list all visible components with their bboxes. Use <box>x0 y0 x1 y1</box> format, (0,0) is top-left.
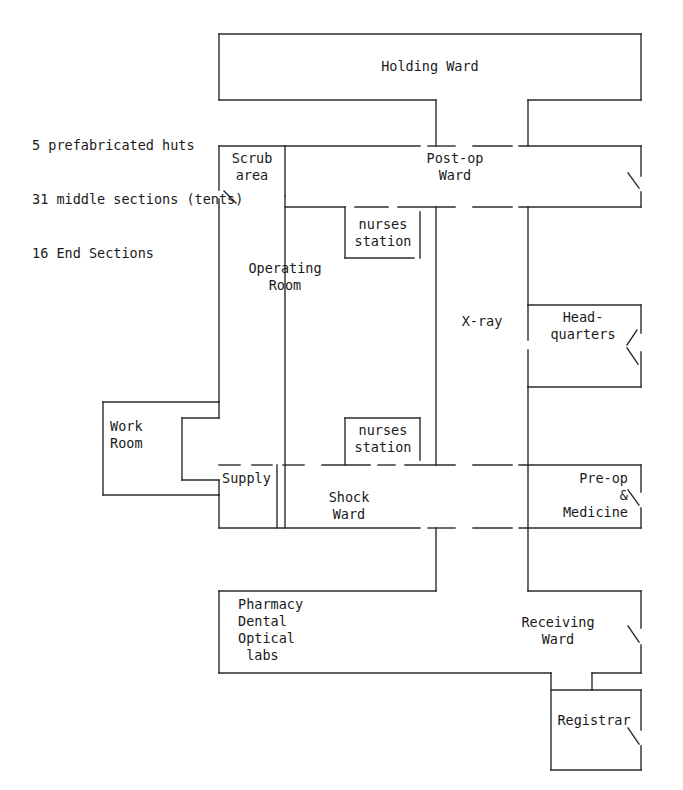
wall-group-xray-corridor <box>436 207 528 465</box>
room-label-nurses-station-lower: nurses station <box>341 422 425 456</box>
wall-group-registrar <box>551 690 641 770</box>
legend-line-1: 5 prefabricated huts <box>32 136 243 154</box>
room-label-nurses-station-upper: nurses station <box>341 216 425 250</box>
room-label-pharmacy-block: Pharmacy Dental Optical labs <box>238 596 398 664</box>
room-label-headquarters: Head- quarters <box>528 309 638 343</box>
room-label-pre-op-medicine: Pre-op & Medicine <box>518 470 628 521</box>
wall-group-holding-connectors <box>436 100 528 146</box>
room-label-supply: Supply <box>222 470 292 487</box>
room-label-registrar: Registrar <box>549 712 639 729</box>
room-label-receiving-ward: Receiving Ward <box>498 614 618 648</box>
room-label-xray: X-ray <box>436 313 528 330</box>
room-label-shock-ward: Shock Ward <box>294 489 404 523</box>
wall-group-postop-right <box>628 146 641 207</box>
room-label-operating-room: Operating Room <box>207 260 363 294</box>
room-label-holding-ward: Holding Ward <box>219 58 641 75</box>
room-label-work-room: Work Room <box>110 418 190 452</box>
room-label-post-op-ward: Post-op Ward <box>400 150 510 184</box>
floor-plan-canvas: 5 prefabricated huts 31 middle sections … <box>0 0 683 790</box>
legend-line-2: 31 middle sections (tents) <box>32 190 243 208</box>
room-label-scrub-area: Scrub area <box>219 150 285 184</box>
wall-group-lower-connectors <box>436 528 528 591</box>
